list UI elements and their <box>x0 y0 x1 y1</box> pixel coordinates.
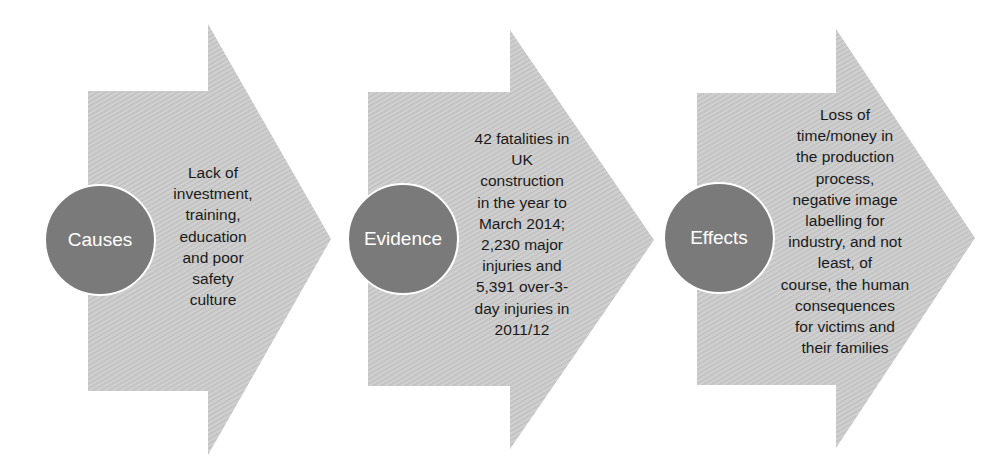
step-label-evidence: Evidence <box>364 228 442 250</box>
text-line: process, <box>765 168 925 189</box>
text-line: their families <box>765 337 925 358</box>
text-line: labelling for <box>765 210 925 231</box>
text-line: UK <box>452 149 592 170</box>
text-line: course, the human <box>765 274 925 295</box>
text-line: safety <box>158 268 268 289</box>
text-line: injuries and <box>452 255 592 276</box>
text-line: and poor <box>158 247 268 268</box>
text-line: industry, and not <box>765 231 925 252</box>
step-label-effects: Effects <box>690 227 748 249</box>
step-circle-evidence: Evidence <box>347 183 459 295</box>
text-line: least, of <box>765 252 925 273</box>
step-text-effects: Loss of time/money in the production pro… <box>765 104 925 358</box>
text-line: the production <box>765 146 925 167</box>
step-circle-causes: Causes <box>44 184 156 296</box>
text-line: for victims and <box>765 316 925 337</box>
text-line: investment, <box>158 183 268 204</box>
text-line: day injuries in <box>452 298 592 319</box>
text-line: construction <box>452 170 592 191</box>
text-line: 5,391 over-3- <box>452 276 592 297</box>
text-line: culture <box>158 289 268 310</box>
step-text-causes: Lack of investment, training, education … <box>158 162 268 310</box>
text-line: March 2014; <box>452 213 592 234</box>
text-line: training, <box>158 204 268 225</box>
text-line: consequences <box>765 295 925 316</box>
text-line: Loss of <box>765 104 925 125</box>
text-line: education <box>158 226 268 247</box>
text-line: 2011/12 <box>452 319 592 340</box>
cause-evidence-effect-diagram: Causes Lack of investment, training, edu… <box>0 0 987 462</box>
step-label-causes: Causes <box>68 229 132 251</box>
step-text-evidence: 42 fatalities in UK construction in the … <box>452 128 592 340</box>
text-line: negative image <box>765 189 925 210</box>
text-line: in the year to <box>452 192 592 213</box>
text-line: 42 fatalities in <box>452 128 592 149</box>
text-line: 2,230 major <box>452 234 592 255</box>
text-line: Lack of <box>158 162 268 183</box>
text-line: time/money in <box>765 125 925 146</box>
step-circle-effects: Effects <box>663 182 775 294</box>
